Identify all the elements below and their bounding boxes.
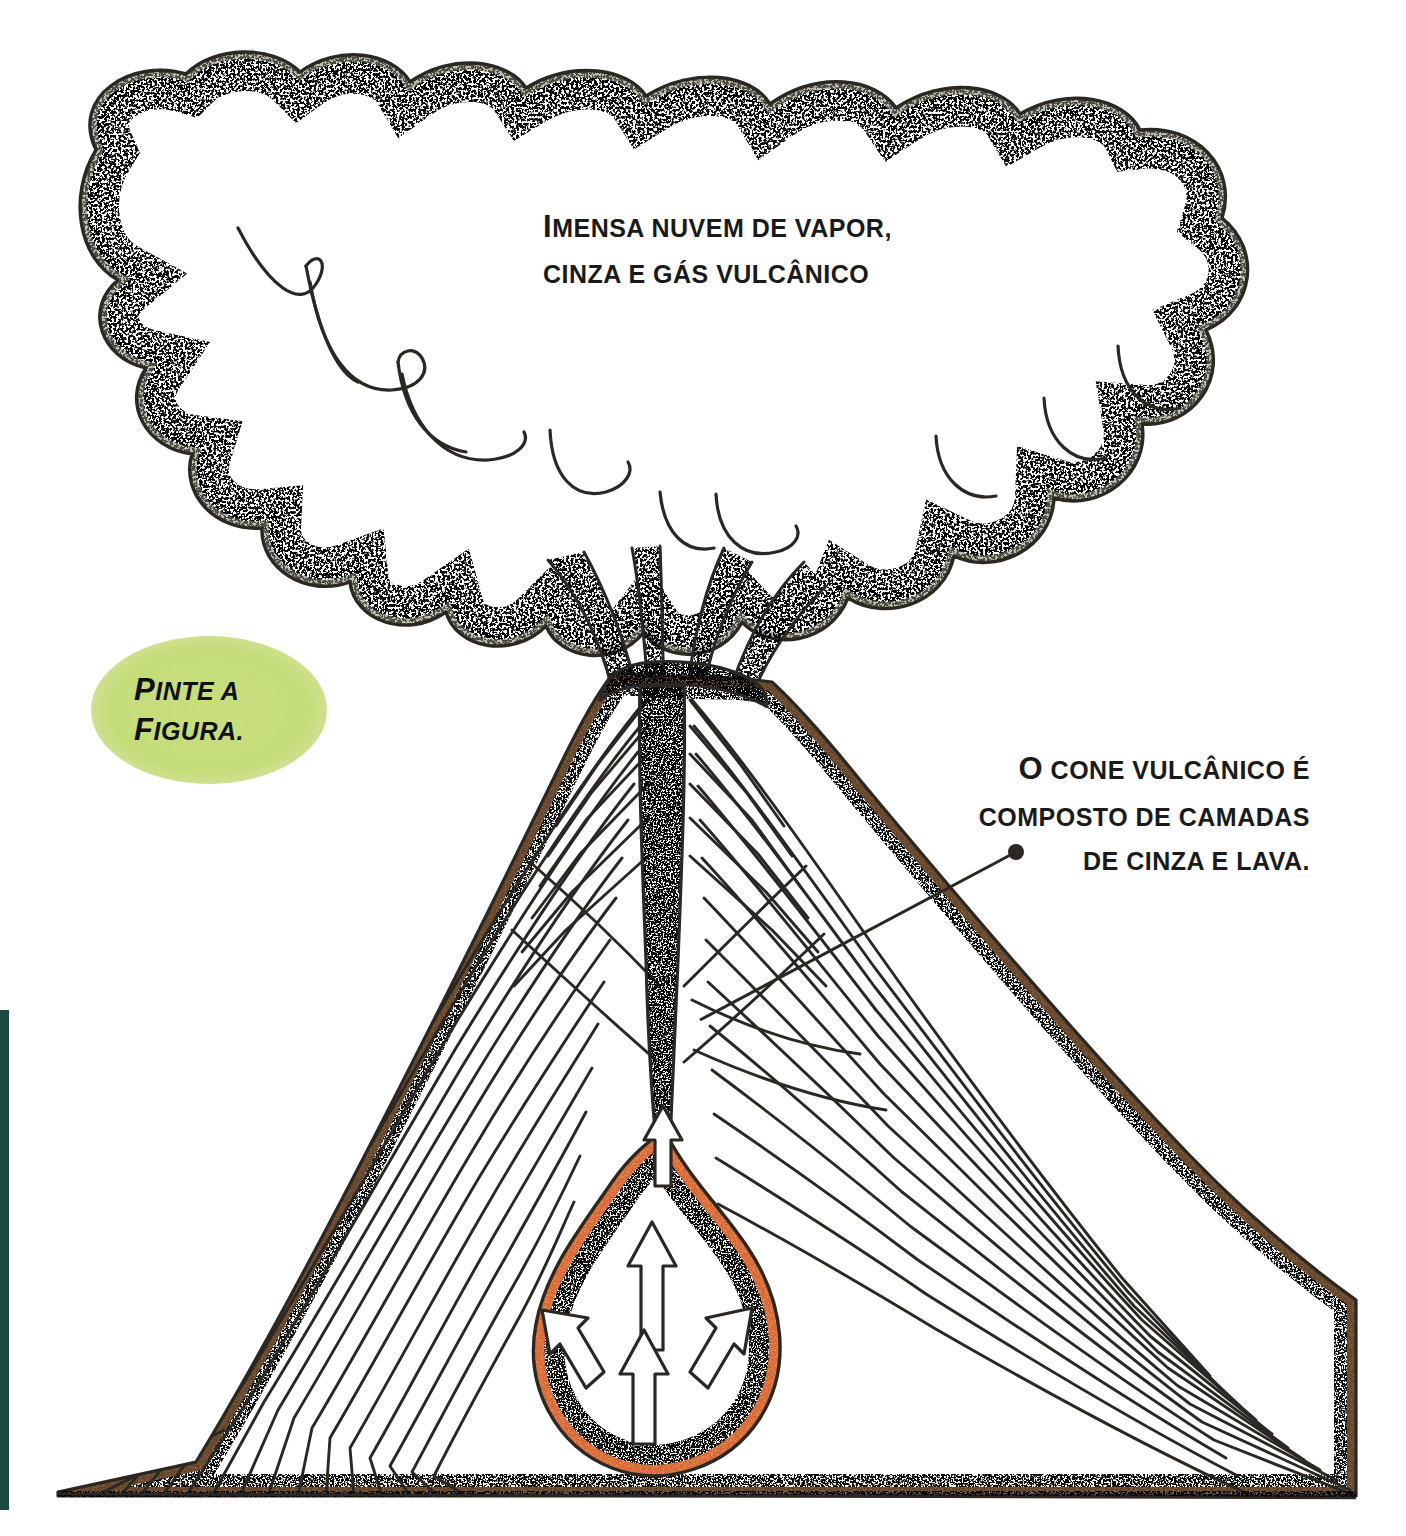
- cone-caption-line3: DE CINZA E LAVA.: [979, 842, 1310, 880]
- illustration-page: PINTE A FIGURA. IMENSA NUVEM DE VAPOR, C…: [0, 0, 1406, 1536]
- paint-instruction-line2-rest: IGURA.: [153, 717, 244, 745]
- ground-line: [58, 1492, 1356, 1498]
- page-edge-strip: [0, 1010, 9, 1510]
- cloud-caption-line1-lead: I: [543, 209, 552, 244]
- cone-caption-line1-lead: O: [1019, 751, 1044, 786]
- paint-instruction-line1-rest: INTE A: [155, 677, 239, 705]
- cloud-caption-line2-rest: CINZA E GÁS VULCÂNICO: [543, 260, 869, 288]
- paint-instruction-line1: PINTE A: [134, 670, 330, 710]
- cone-caption-line2: COMPOSTO DE CAMADAS: [979, 798, 1310, 836]
- cone-caption-line2-rest: COMPOSTO DE CAMADAS: [979, 803, 1310, 831]
- cone-caption-line1-rest: CONE VULCÂNICO É: [1043, 756, 1310, 784]
- paint-instruction-line2: FIGURA.: [134, 710, 330, 750]
- cone-caption: O CONE VULCÂNICO É COMPOSTO DE CAMADAS D…: [979, 745, 1310, 880]
- paint-instruction-text: PINTE A FIGURA.: [88, 634, 330, 786]
- eruption-cloud: [80, 52, 1248, 656]
- cone-caption-line3-rest: DE CINZA E LAVA.: [1083, 847, 1310, 875]
- cloud-caption: IMENSA NUVEM DE VAPOR, CINZA E GÁS VULCÂ…: [543, 203, 892, 293]
- paint-instruction-line1-lead: P: [134, 672, 155, 707]
- cloud-caption-line2: CINZA E GÁS VULCÂNICO: [543, 255, 892, 293]
- paint-instruction-line2-lead: F: [134, 712, 153, 747]
- paint-instruction-bubble[interactable]: PINTE A FIGURA.: [88, 634, 330, 786]
- cloud-caption-line1: IMENSA NUVEM DE VAPOR,: [543, 203, 892, 250]
- cone-caption-line1: O CONE VULCÂNICO É: [979, 745, 1310, 792]
- cloud-caption-line1-rest: MENSA NUVEM DE VAPOR,: [552, 214, 892, 242]
